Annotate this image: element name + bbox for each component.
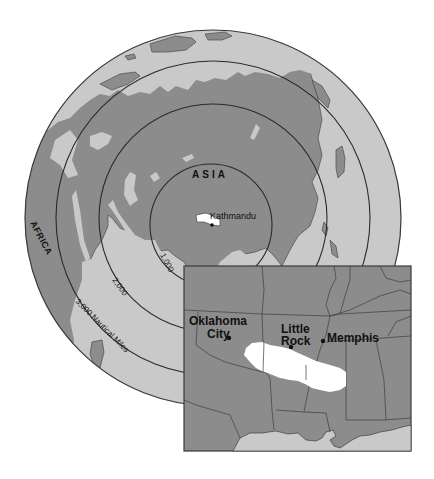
memphis-dot: [321, 339, 325, 343]
memphis-label: Memphis: [327, 331, 379, 345]
asia-label: ASIA: [192, 169, 228, 180]
inset-map: Oklahoma City Little Rock Memphis: [184, 266, 411, 451]
kathmandu-dot: [210, 223, 214, 227]
kathmandu-label: Kathmandu: [210, 211, 256, 221]
oklahoma-city-label-line1: Oklahoma: [189, 314, 247, 328]
map-figure: ASIA AFRICA Kathmandu 1,000 2,000 3,000 …: [0, 0, 434, 479]
little-rock-label-line2: Rock: [281, 334, 311, 348]
oklahoma-city-label-line2: City: [207, 327, 230, 341]
